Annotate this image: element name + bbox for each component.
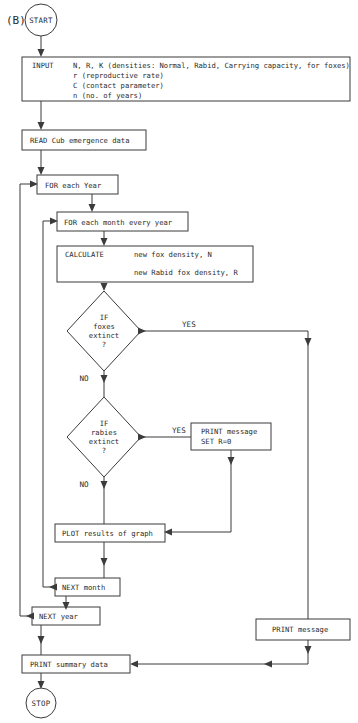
arrowhead-plot-nextmonth — [101, 558, 108, 566]
calculate-line-2: new Rabid fox density, R — [134, 268, 239, 277]
arrowhead-nextyear-printsum — [38, 636, 45, 644]
label-no-foxes: NO — [79, 374, 89, 383]
arrowhead-printmsg-printsum — [130, 661, 138, 668]
plot-results-label: PLOT results of graph — [62, 529, 153, 538]
next-year-label: NEXT year — [39, 612, 79, 621]
arrowhead-printset-down — [228, 457, 235, 465]
arrowhead-rabies-yes — [138, 434, 146, 441]
input-line-4: n (no. of years) — [73, 91, 142, 100]
arrowhead-printmsg-mid — [264, 661, 272, 668]
next-month-label: NEXT month — [62, 583, 105, 592]
for-each-month-label: FOR each month every year — [64, 218, 173, 227]
decision2-line-2: rabies — [91, 428, 117, 437]
decision2-line-4: ? — [102, 446, 106, 455]
print-summary-label: PRINT summary data — [30, 660, 108, 669]
decision1-line-4: ? — [102, 340, 106, 349]
arrowhead-foxes-yes-start — [138, 328, 146, 335]
arrowhead-foxes-no — [101, 375, 108, 383]
input-line-3: C (contact parameter) — [73, 81, 164, 90]
flowchart-page: (B) START INPUT N, R, K (densities: Norm… — [0, 0, 358, 723]
flowchart-canvas: (B) START INPUT N, R, K (densities: Norm… — [0, 0, 358, 723]
input-line-1: N, R, K (densities: Normal, Rabid, Carry… — [73, 61, 350, 70]
label-yes-rabies: YES — [172, 426, 186, 435]
decision1-line-2: foxes — [93, 322, 115, 331]
arrowhead-formonth-calculate — [101, 238, 108, 246]
edge-foxes-yes — [141, 331, 308, 619]
decision1-line-1: IF — [100, 313, 109, 322]
arrowhead-nextmonth-left — [49, 584, 57, 591]
arrowhead-foryear-formonth — [89, 204, 96, 212]
arrowhead-printmsg-down — [305, 646, 312, 654]
arrowhead-rabies-no — [101, 481, 108, 489]
arrowhead-nextmonth-nextyear — [63, 602, 70, 610]
calculate-line-1: new fox density, N — [134, 250, 212, 259]
print-set-line-2: SET R=0 — [201, 437, 231, 446]
input-line-2: r (reproductive rate) — [73, 71, 164, 80]
arrowhead-input-read — [38, 122, 45, 130]
calculate-keyword: CALCULATE — [65, 250, 104, 259]
edge-nextmonth-formonth — [43, 221, 55, 587]
decision1-line-3: extinct — [89, 331, 119, 340]
print-message-label: PRINT message — [272, 625, 328, 634]
for-each-year-label: FOR each Year — [45, 181, 102, 190]
start-label: START — [29, 16, 53, 25]
decision2-line-3: extinct — [89, 437, 119, 446]
arrowhead-read-foryear — [38, 167, 45, 175]
edge-printset-plot — [170, 450, 231, 532]
edge-printmsg-printsum — [136, 640, 308, 664]
print-set-line-1: PRINT message — [201, 427, 257, 436]
arrowhead-calculate-diamond1 — [101, 283, 108, 291]
decision2-line-1: IF — [100, 419, 109, 428]
label-no-rabies: NO — [79, 480, 89, 489]
edge-nextyear-foryear — [20, 184, 32, 616]
arrowhead-foxes-yes-down — [305, 338, 312, 346]
read-label: READ Cub emergence data — [30, 136, 130, 145]
label-yes-foxes: YES — [182, 320, 196, 329]
arrowhead-nextyear-left — [26, 613, 34, 620]
stop-label: STOP — [32, 699, 51, 708]
input-keyword: INPUT — [32, 61, 54, 70]
arrowhead-start-input — [38, 49, 45, 57]
panel-label: (B) — [6, 14, 26, 27]
